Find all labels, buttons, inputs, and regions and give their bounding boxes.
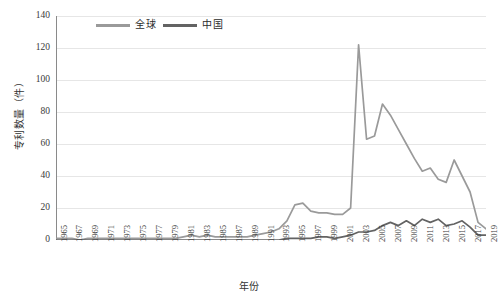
chart-legend: 全球中国 [96,20,223,30]
y-axis-tick-label: 40 [16,171,50,181]
y-axis-tick-label: 80 [16,107,50,117]
y-axis-tick-label: 120 [16,43,50,53]
plot-area [56,16,486,240]
y-axis-tick-label: 60 [16,139,50,149]
x-axis-title: 年份 [0,278,498,293]
x-axis-tick-label: 2005 [378,225,387,242]
x-axis-tick-label: 2007 [394,225,403,242]
x-axis-tick-label: 1993 [282,225,291,242]
x-axis-tick-label: 1995 [298,225,307,242]
x-axis-tick-label: 1979 [171,225,180,242]
x-axis-tick-label: 1973 [123,225,132,242]
x-axis-tick-label: 2009 [410,225,419,242]
patent-line-chart: 专利数量（件） 020406080100120140 1965196719691… [0,0,498,299]
series-line-全球 [56,45,486,240]
x-axis-tick-label: 1969 [91,225,100,242]
legend-item-全球[interactable]: 全球 [96,20,156,30]
legend-item-中国[interactable]: 中国 [163,20,223,30]
x-axis-tick-label: 2017 [474,225,483,242]
y-axis-tick-labels: 020406080100120140 [14,16,50,240]
x-axis-tick-label: 1981 [187,225,196,242]
x-axis-tick-label: 1997 [314,225,323,242]
legend-swatch-icon [96,24,130,27]
x-axis-tick-label: 1965 [60,225,69,242]
legend-swatch-icon [163,24,197,27]
y-axis-tick-label: 0 [16,235,50,245]
legend-label: 全球 [135,20,156,30]
legend-label: 中国 [202,20,223,30]
x-axis-tick-label: 1977 [155,225,164,242]
y-axis-tick-label: 20 [16,203,50,213]
x-axis-tick-label: 1999 [330,225,339,242]
x-axis-tick-label: 1985 [219,225,228,242]
x-axis-tick-label: 2019 [490,225,498,242]
x-axis-tick-label: 1987 [235,225,244,242]
x-axis-tick-label: 1983 [203,225,212,242]
x-axis-tick-label: 1971 [107,225,116,242]
x-axis-tick-label: 1989 [251,225,260,242]
y-axis-tick-label: 100 [16,75,50,85]
x-axis-tick-label: 1975 [139,225,148,242]
x-axis-tick-label: 1991 [267,225,276,242]
x-axis-tick-label: 2003 [362,225,371,242]
x-axis-tick-label: 2011 [426,225,435,242]
y-axis-tick-label: 140 [16,11,50,21]
x-axis-tick-labels: 1965196719691971197319751977197919811983… [56,242,486,278]
x-axis-tick-label: 1967 [75,225,84,242]
plot-svg [56,16,486,240]
x-axis-tick-label: 2001 [346,225,355,242]
x-axis-tick-label: 2015 [458,225,467,242]
x-axis-tick-label: 2013 [442,225,451,242]
